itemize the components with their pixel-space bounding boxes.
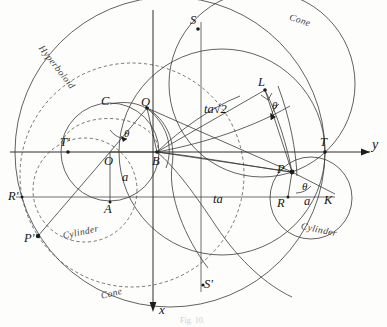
angle-label-theta-Q: θ: [124, 128, 129, 139]
segment-L-P: [265, 90, 292, 172]
point-label-T-prime: T': [60, 136, 70, 149]
point-label-Q: Q: [141, 96, 150, 109]
point-marker-T-prime: [66, 150, 70, 154]
point-marker-S: [196, 27, 200, 31]
point-label-B: B: [152, 155, 160, 168]
segment-label-a-center: a: [122, 171, 128, 184]
point-marker-R-prime: [21, 196, 24, 199]
point-marker-P: [290, 170, 295, 175]
segment-B-L: [157, 90, 265, 152]
point-label-R: R: [277, 197, 285, 210]
point-label-T: T: [320, 136, 327, 149]
cone-lower-circle: [20, 63, 244, 287]
angle-label-theta-L: θ: [272, 100, 277, 111]
angle-label-theta-P: θ: [302, 181, 307, 192]
point-label-P: P: [277, 163, 285, 176]
axis-label-x: x: [159, 303, 165, 316]
segment-P-K: [292, 172, 335, 194]
point-label-O: O: [104, 155, 113, 168]
point-marker-T: [323, 150, 327, 154]
segment-Q-P: [147, 108, 292, 172]
segment-label-a-right: a: [304, 195, 310, 208]
point-label-A: A: [104, 203, 112, 216]
arc-Q-downward: [147, 108, 208, 268]
x-axis-arrowhead: [150, 302, 157, 312]
point-label-C: C: [101, 95, 109, 108]
arc-B-down-right: [157, 152, 292, 297]
diagram-canvas: [0, 0, 387, 327]
segment-label-ta: ta: [213, 193, 223, 206]
figure-container: O A B C Q S S' L P P' R R' T T' K ta√2 t…: [0, 0, 387, 327]
segment-label-ta-root2: ta√2: [204, 103, 227, 116]
segment-P-R: [288, 172, 292, 197]
segment-Pprime-O: [38, 152, 110, 236]
axis-label-y: y: [372, 138, 378, 152]
point-marker-R: [287, 196, 290, 199]
point-label-S: S: [190, 14, 196, 27]
point-label-L: L: [258, 76, 265, 89]
point-label-K: K: [324, 194, 332, 207]
figure-caption: Fig. 10.: [180, 316, 205, 325]
y-axis-arrowhead: [361, 149, 370, 156]
point-label-P-prime: P': [24, 232, 34, 245]
point-label-S-prime: S': [204, 278, 213, 291]
point-label-R-prime: R': [8, 190, 18, 203]
point-marker-P-prime: [36, 234, 40, 238]
inner-dashed-arc: [61, 119, 158, 152]
